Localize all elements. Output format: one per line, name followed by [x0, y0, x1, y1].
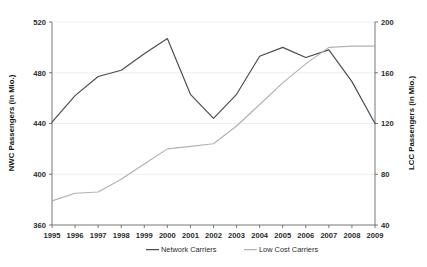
- right-tick-label: 120: [381, 119, 394, 128]
- right-axis-tick-labels: 4080120160200: [381, 18, 394, 230]
- chart-legend: Network CarriersLow Cost Carriers: [146, 245, 318, 254]
- x-tick-label: 2003: [228, 231, 245, 240]
- left-tick-label: 480: [33, 69, 46, 78]
- legend-label-0: Network Carriers: [161, 245, 217, 254]
- right-tick-label: 40: [381, 221, 389, 230]
- x-tick-label: 2001: [182, 231, 200, 240]
- x-tick-label: 2002: [205, 231, 222, 240]
- x-tick-label: 1996: [67, 231, 84, 240]
- x-tick-label: 1999: [136, 231, 153, 240]
- x-tick-label: 2007: [320, 231, 337, 240]
- right-axis-title: LCC Passengers (in Mio.): [407, 76, 416, 170]
- x-tick-label: 2004: [251, 231, 269, 240]
- series-line-network-carriers: [52, 38, 375, 123]
- x-tick-label: 2008: [343, 231, 360, 240]
- x-tick-label: 2005: [274, 231, 292, 240]
- line-chart: 360400440480520 4080120160200 1995199619…: [0, 0, 427, 267]
- right-tick-label: 80: [381, 170, 389, 179]
- left-axis-tick-labels: 360400440480520: [33, 18, 46, 230]
- x-tick-label: 1998: [113, 231, 130, 240]
- left-axis-title: NWC Passengers (in Mio.): [7, 74, 16, 171]
- left-tick-label: 520: [33, 18, 46, 27]
- legend-label-1: Low Cost Carriers: [259, 245, 318, 254]
- left-tick-label: 360: [33, 221, 46, 230]
- x-axis-tick-labels: 1995199619971998199920002001200220032004…: [44, 231, 384, 240]
- x-tick-label: 2009: [367, 231, 384, 240]
- right-tick-label: 160: [381, 69, 394, 78]
- axis-ticks: [49, 22, 378, 228]
- left-tick-label: 400: [33, 170, 46, 179]
- series-lines: [52, 38, 375, 200]
- right-tick-label: 200: [381, 18, 394, 27]
- x-tick-label: 1995: [44, 231, 62, 240]
- chart-container: 360400440480520 4080120160200 1995199619…: [0, 0, 427, 267]
- x-tick-label: 1997: [90, 231, 107, 240]
- gridlines: [52, 22, 375, 174]
- x-tick-label: 2006: [297, 231, 314, 240]
- left-tick-label: 440: [33, 119, 46, 128]
- x-tick-label: 2000: [159, 231, 176, 240]
